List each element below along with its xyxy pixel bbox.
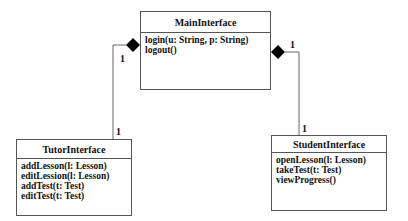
tutor-part-multiplicity: 1 xyxy=(116,127,121,137)
operation: viewProgress() xyxy=(276,175,382,185)
class-name: TutorInterface xyxy=(17,140,131,159)
operation: addTest(t: Test) xyxy=(21,181,127,191)
class-main-interface[interactable]: MainInterface login(u: String, p: String… xyxy=(140,11,271,90)
student-part-multiplicity: 1 xyxy=(302,124,307,134)
operations-compartment: openLesson(l: Lesson) takeTest(t: Test) … xyxy=(272,153,386,187)
student-composition-diamond-icon xyxy=(271,45,285,59)
class-student-interface[interactable]: StudentInterface openLesson(l: Lesson) t… xyxy=(271,135,387,211)
operations-compartment: login(u: String, p: String) logout() xyxy=(141,33,270,57)
student-whole-multiplicity: 1 xyxy=(290,40,295,50)
operation: login(u: String, p: String) xyxy=(145,35,266,45)
operations-compartment: addLesson(l: Lesson) editLession(l: Less… xyxy=(17,159,131,203)
class-tutor-interface[interactable]: TutorInterface addLesson(l: Lesson) edit… xyxy=(16,139,132,216)
operation: editLession(l: Lesson) xyxy=(21,171,127,181)
operation: addLesson(l: Lesson) xyxy=(21,161,127,171)
operation: openLesson(l: Lesson) xyxy=(276,155,382,165)
student-composition-line xyxy=(285,52,299,135)
operation: logout() xyxy=(145,45,266,55)
tutor-whole-multiplicity: 1 xyxy=(120,54,125,64)
class-name: StudentInterface xyxy=(272,136,386,153)
operation: editTest(t: Test) xyxy=(21,191,127,201)
tutor-composition-diamond-icon xyxy=(126,38,140,52)
class-name: MainInterface xyxy=(141,12,270,33)
operation: takeTest(t: Test) xyxy=(276,165,382,175)
